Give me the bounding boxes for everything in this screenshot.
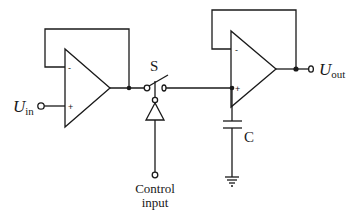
opamp2-minus-sign: -: [235, 45, 238, 55]
circuit-diagram: Uin - + S Control input C: [0, 0, 362, 221]
capacitor-label: C: [244, 129, 254, 145]
control-label-line1: Control: [135, 181, 175, 196]
ground-icon: [225, 177, 239, 186]
control-input-terminal: [152, 172, 158, 178]
input-label: Uin: [13, 97, 34, 117]
opamp-1: [45, 29, 144, 127]
control-buffer: [146, 97, 164, 177]
control-label-line2: input: [142, 195, 169, 210]
opamp1-plus-sign: +: [68, 102, 73, 112]
junction-dot: [127, 86, 132, 91]
opamp2-plus-sign: +: [235, 84, 240, 94]
output-junction-dot: [293, 66, 298, 71]
switch-label: S: [150, 58, 158, 74]
opamp1-minus-sign: -: [68, 63, 71, 73]
switch-s: [144, 75, 232, 98]
opamp-2: [212, 10, 308, 107]
output-label: Uout: [319, 60, 345, 80]
output-terminal: [309, 66, 314, 72]
input-terminal: [38, 103, 65, 109]
